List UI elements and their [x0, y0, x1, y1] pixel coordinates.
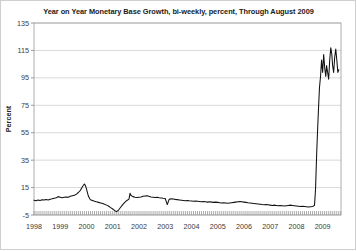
plot-area-frame — [34, 23, 341, 215]
y-axis-title: Percent — [4, 105, 13, 132]
x-tick-label: 2000 — [78, 222, 94, 231]
x-tick-label: 2007 — [262, 222, 278, 231]
y-tick-marks — [31, 23, 34, 215]
y-tick-label: 115 — [18, 46, 29, 55]
y-tick-label: 15 — [21, 183, 29, 192]
gridlines — [34, 23, 341, 215]
chart-figure: Year on Year Monetary Base Growth, bi-we… — [0, 0, 357, 251]
x-axis-tick-labels: 1998199920002001200220032004200520062007… — [26, 222, 331, 231]
data-series-line — [34, 48, 339, 212]
y-tick-label: 95 — [21, 73, 29, 82]
y-tick-label: 135 — [17, 19, 29, 28]
line-chart-plot: -51535557595115135 199819992000200120022… — [0, 0, 357, 251]
x-tick-label: 2003 — [157, 222, 173, 231]
y-tick-label: -5 — [23, 211, 29, 220]
x-tick-label: 2008 — [288, 222, 304, 231]
y-tick-label: 55 — [21, 128, 29, 137]
x-minor-tick-marks — [34, 211, 341, 215]
x-tick-label: 2002 — [131, 222, 147, 231]
x-tick-label: 2006 — [236, 222, 252, 231]
y-tick-label: 75 — [21, 101, 29, 110]
x-tick-label: 2009 — [315, 222, 331, 231]
x-tick-label: 2001 — [105, 222, 121, 231]
x-tick-label: 1999 — [52, 222, 68, 231]
x-tick-label: 2005 — [210, 222, 226, 231]
y-tick-label: 35 — [21, 156, 29, 165]
y-axis-tick-labels: -51535557595115135 — [17, 19, 29, 220]
x-tick-label: 2004 — [183, 222, 199, 231]
x-tick-label: 1998 — [26, 222, 42, 231]
